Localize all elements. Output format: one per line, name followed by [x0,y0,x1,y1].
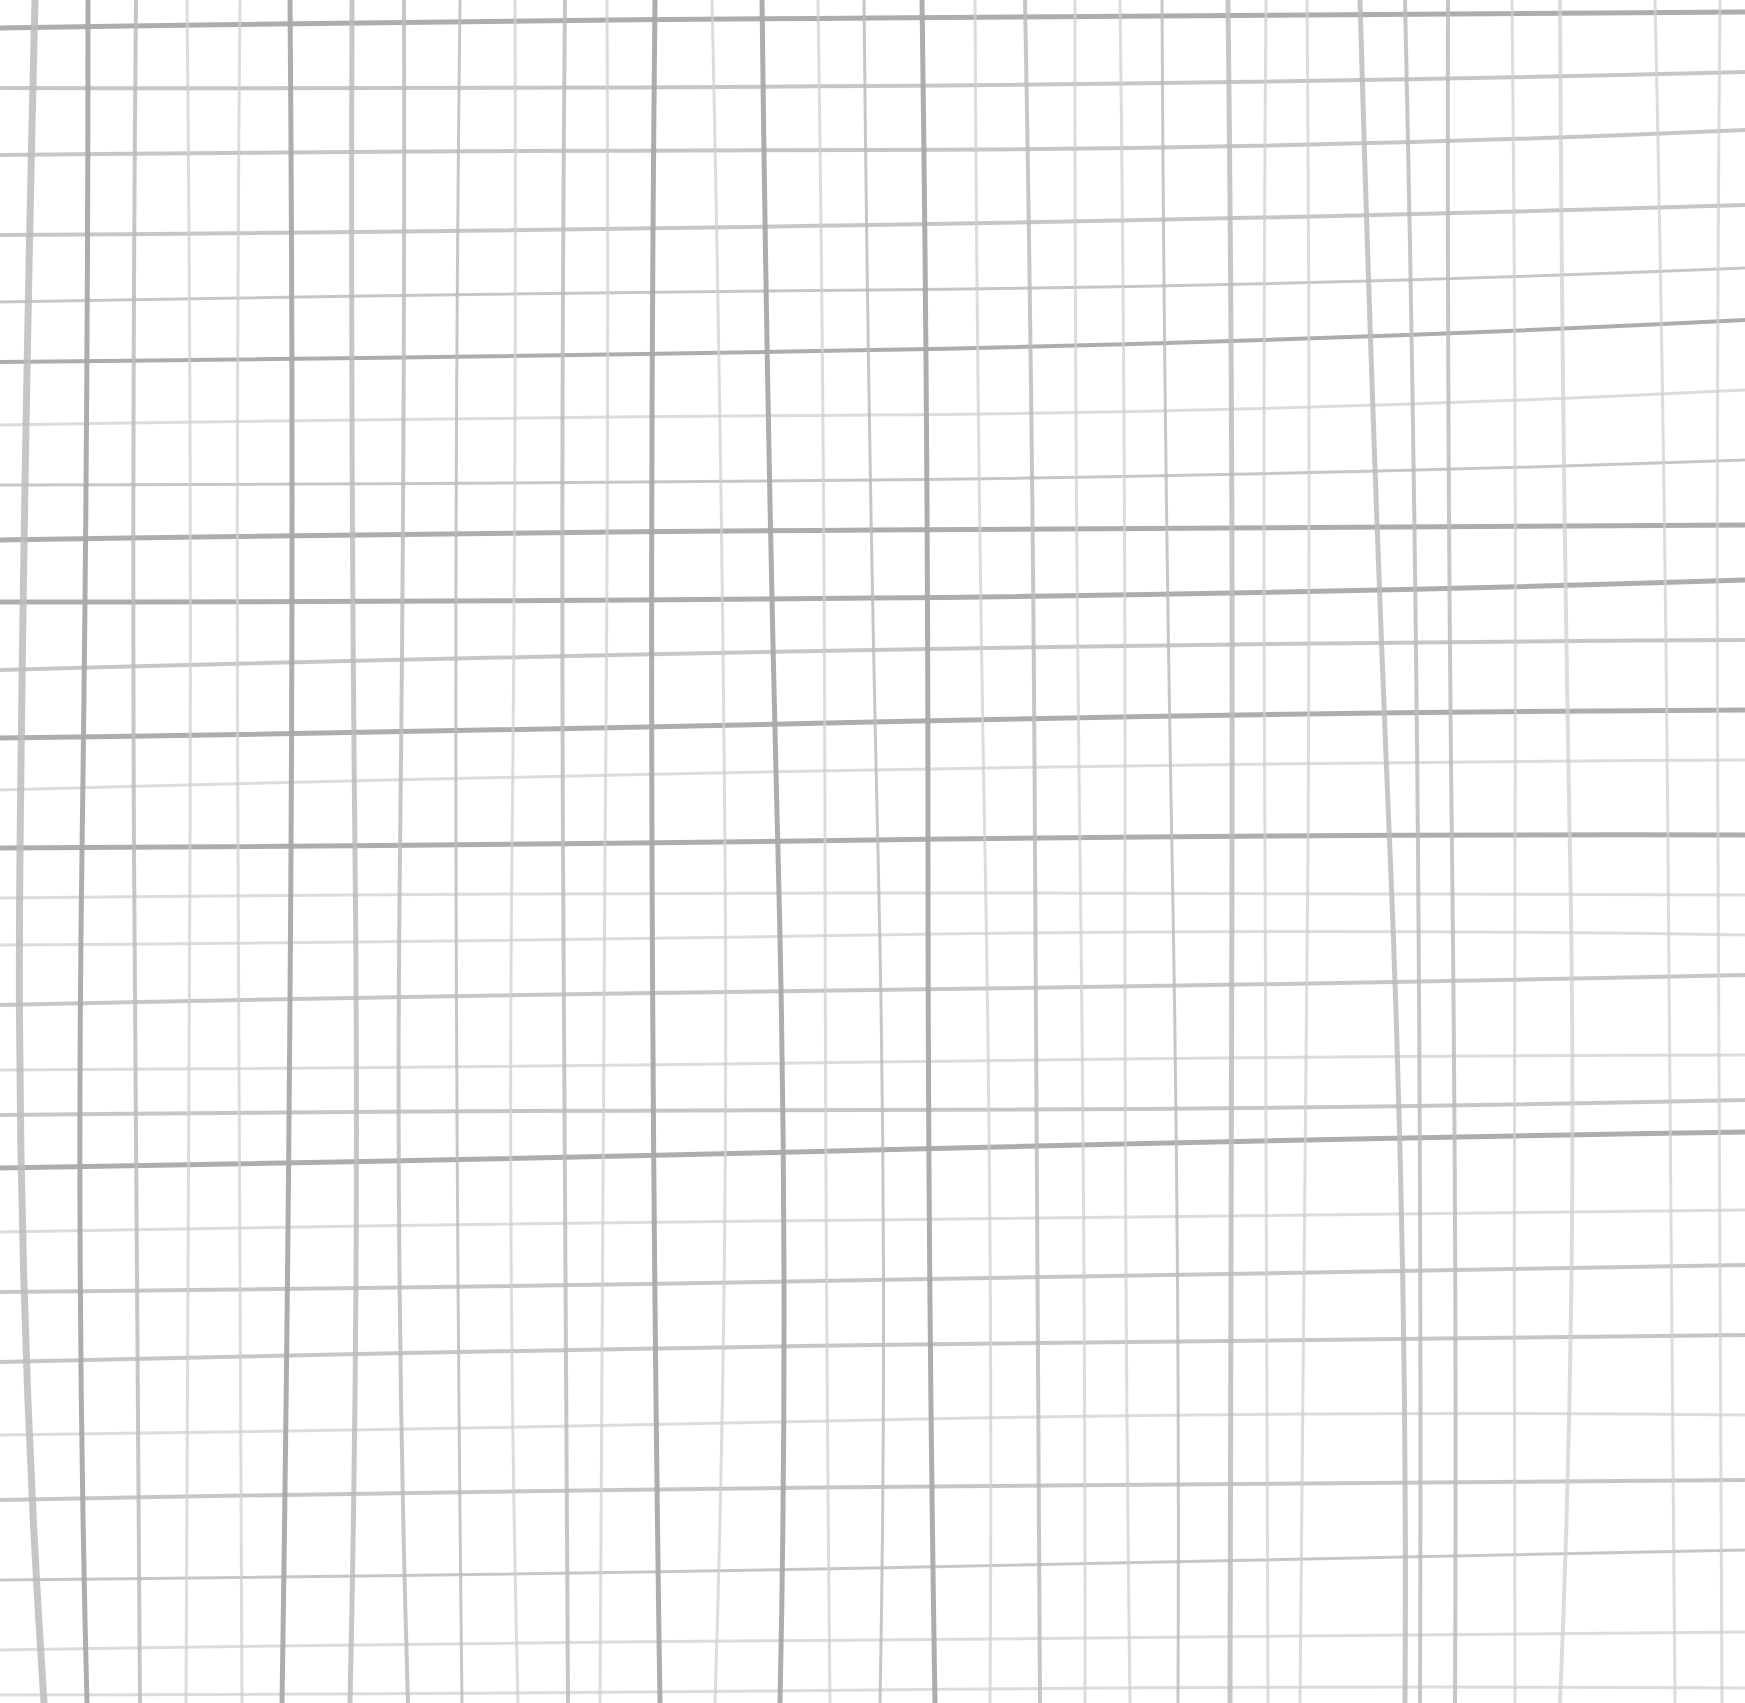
hand-drawn-grid-pattern [0,0,1745,1703]
background [0,0,1745,1703]
